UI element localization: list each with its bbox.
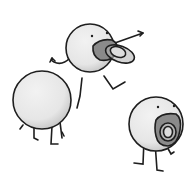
back-facing-character: [13, 71, 71, 144]
illustration-scene: Three round cartoon blob characters with…: [0, 0, 192, 179]
illustration-canvas: [0, 0, 192, 179]
standing-character-with-pacifier: [129, 97, 183, 171]
